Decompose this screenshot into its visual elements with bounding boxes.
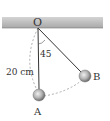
string-to-a [38,28,39,89]
ball-a-label: A [33,106,42,117]
angle-arc [38,40,45,44]
ball-b-label: B [93,71,100,82]
swing-arc [44,80,82,96]
pivot-label: O [33,16,42,29]
ball-b [79,70,91,82]
pendulum-diagram: O 45 20 cm A B [0,0,110,121]
ceiling-bar [2,17,103,28]
length-arc [30,28,38,90]
length-label: 20 cm [6,67,34,77]
angle-label: 45 [40,49,52,59]
ball-a [33,89,45,101]
